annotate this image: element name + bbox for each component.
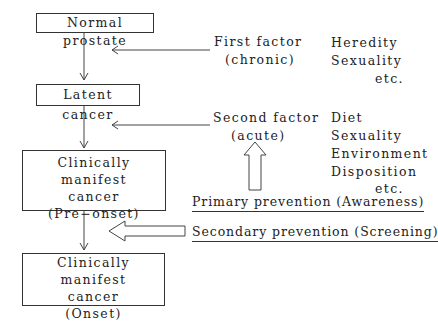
first-factor-subtitle: (chronic) bbox=[225, 51, 295, 68]
stage-label: (Onset) bbox=[23, 305, 164, 322]
stage-label: cancer bbox=[23, 288, 164, 305]
stage-box-onset: Clinically manifest cancer (Onset) bbox=[22, 253, 165, 306]
stage-box-normal-prostate: Normal prostate bbox=[36, 13, 154, 33]
second-factor-example: Disposition bbox=[331, 163, 417, 180]
second-factor-example: Environment bbox=[331, 145, 429, 162]
second-factor-title: Second factor bbox=[213, 109, 319, 126]
second-factor-example: Diet bbox=[331, 109, 363, 126]
second-factor-subtitle: (acute) bbox=[231, 127, 285, 144]
stage-label: (Pre−onset) bbox=[23, 205, 165, 222]
primary-prevention-label: Primary prevention (Awareness) bbox=[192, 193, 424, 212]
first-factor-example: Heredity bbox=[331, 34, 398, 51]
secondary-prevention-label: Secondary prevention (Screening) bbox=[192, 223, 438, 242]
stage-box-pre-onset: Clinically manifest cancer (Pre−onset) bbox=[22, 150, 166, 211]
stage-label: Latent cancer bbox=[37, 85, 139, 125]
first-factor-example: etc. bbox=[375, 70, 404, 87]
stage-label: Normal prostate bbox=[37, 14, 153, 50]
stage-box-latent-cancer: Latent cancer bbox=[36, 84, 140, 106]
stage-label: Clinically manifest bbox=[23, 254, 164, 288]
first-factor-title: First factor bbox=[214, 33, 302, 50]
first-factor-example: Sexuality bbox=[331, 52, 402, 69]
second-factor-example: Sexuality bbox=[331, 127, 402, 144]
stage-label: Clinically manifest bbox=[23, 154, 165, 188]
stage-label: cancer bbox=[23, 188, 165, 205]
